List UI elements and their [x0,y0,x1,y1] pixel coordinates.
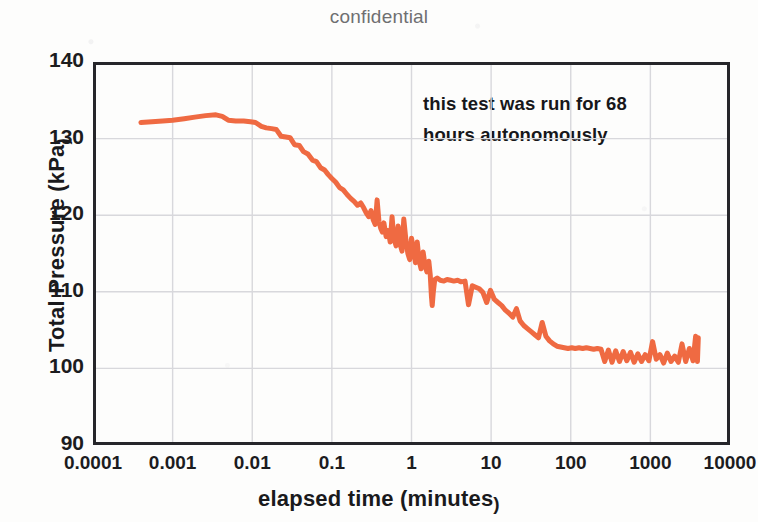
data-series-group [141,115,698,363]
chart-title: confidential [0,6,758,28]
x-axis-tick-label: 10 [481,452,502,474]
x-axis-label-paren: ) [493,493,500,514]
plot-area [93,62,730,445]
x-axis-tick-label: 1000 [629,452,671,474]
y-axis-tick-label: 100 [6,354,84,378]
x-axis-tick-label: 10000 [704,452,757,474]
y-axis-tick-label: 130 [6,125,84,149]
data-series-line [141,115,698,363]
y-axis-label-text: Total Pressure (kPa [44,144,69,352]
x-axis-tick-label: 0.01 [234,452,271,474]
x-axis-tick-label: 0.0001 [64,452,122,474]
chart-figure: confidential this test was run for 68 ho… [0,0,758,522]
y-axis-tick-label: 120 [6,201,84,225]
x-axis-tick-label: 0.001 [149,452,197,474]
x-axis-tick-label: 0.1 [319,452,345,474]
x-axis-label-text: elapsed time (minutes [258,486,493,511]
y-axis-tick-label: 140 [6,48,84,72]
x-axis-tick-label: 100 [555,452,587,474]
x-axis-tick-label: 1 [406,452,417,474]
y-axis-tick-label: 110 [6,278,84,302]
plot-svg [93,62,730,445]
x-axis-label: elapsed time (minutes) [0,486,758,512]
